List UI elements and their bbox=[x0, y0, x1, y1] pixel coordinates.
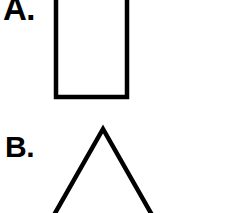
rectangle-outline bbox=[56, 0, 127, 97]
rectangle-shape-a bbox=[0, 0, 242, 213]
figure-label-a: A. bbox=[3, 0, 35, 25]
worksheet-canvas: A. B. bbox=[0, 0, 242, 213]
figure-label-b: B. bbox=[5, 132, 34, 162]
triangle-shape-b bbox=[0, 0, 242, 213]
triangle-outline bbox=[50, 129, 156, 213]
shape-a-container bbox=[0, 0, 242, 213]
shape-b-container bbox=[0, 0, 242, 213]
